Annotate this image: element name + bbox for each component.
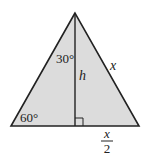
half-base-fraction: x 2 xyxy=(101,126,113,156)
side-label: x xyxy=(109,58,117,73)
altitude-label: h xyxy=(79,68,86,83)
fraction-numerator: x xyxy=(103,126,110,141)
top-angle-label: 30° xyxy=(56,51,74,66)
triangle-diagram: 30° 60° h x x 2 xyxy=(0,0,146,156)
fraction-denominator: 2 xyxy=(104,141,111,156)
bottom-left-angle-label: 60° xyxy=(20,110,38,125)
